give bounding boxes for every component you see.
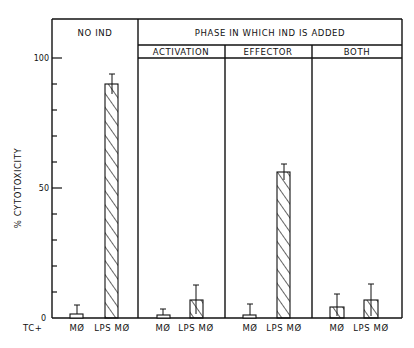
subheader-both: BOTH bbox=[344, 47, 370, 57]
header-phase: PHASE IN WHICH IND IS ADDED bbox=[195, 28, 345, 38]
x-label-lps-mo: LPS MØ bbox=[353, 323, 389, 333]
cytotoxicity-bar-chart: NO IND PHASE IN WHICH IND IS ADDED ACTIV… bbox=[0, 0, 414, 348]
y-tick-50: 50 bbox=[39, 184, 49, 193]
subheader-activation: ACTIVATION bbox=[153, 47, 209, 57]
x-label-mo: MØ bbox=[69, 323, 84, 333]
panel-no-ind: MØ LPS MØ bbox=[69, 74, 129, 333]
x-label-lps-mo: LPS MØ bbox=[266, 323, 302, 333]
x-label-mo: MØ bbox=[242, 323, 257, 333]
x-label-mo: MØ bbox=[155, 323, 170, 333]
bar-no-ind-mo bbox=[70, 314, 83, 318]
subheader-effector: EFFECTOR bbox=[243, 47, 292, 57]
x-label-lps-mo: LPS MØ bbox=[178, 323, 214, 333]
bar-effector-lps-mo bbox=[277, 172, 290, 318]
panel-effector: MØ LPS MØ bbox=[242, 164, 301, 333]
x-label-lps-mo: LPS MØ bbox=[94, 323, 130, 333]
bar-activation-mo bbox=[157, 315, 170, 318]
y-axis bbox=[52, 58, 62, 292]
y-tick-100: 100 bbox=[34, 54, 49, 63]
bar-no-ind-lps-mo bbox=[105, 84, 118, 318]
x-axis-label: TC+ bbox=[22, 323, 43, 333]
y-tick-0: 0 bbox=[41, 314, 46, 323]
header-no-ind: NO IND bbox=[78, 28, 113, 38]
panel-activation: MØ LPS MØ bbox=[155, 285, 213, 333]
y-axis-label: % CYTOTOXICITY bbox=[13, 148, 23, 229]
bar-effector-mo bbox=[243, 315, 256, 318]
panel-both: MØ LPS MØ bbox=[329, 284, 388, 333]
x-label-mo: MØ bbox=[329, 323, 344, 333]
